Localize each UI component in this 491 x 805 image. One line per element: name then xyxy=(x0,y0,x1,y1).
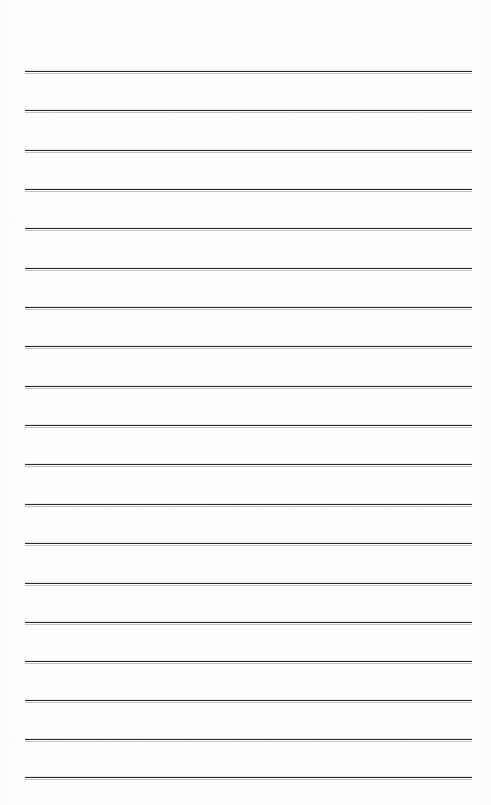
ruled-line xyxy=(25,739,472,740)
ruled-line xyxy=(25,543,472,544)
scan-vignette xyxy=(0,0,491,805)
ruled-line xyxy=(25,228,472,229)
ruled-line xyxy=(25,622,472,623)
ruled-line xyxy=(25,777,472,778)
ruled-line xyxy=(25,71,472,72)
ruled-line xyxy=(25,386,472,387)
ruled-line xyxy=(25,307,472,308)
ruled-line xyxy=(25,110,472,111)
ruled-line xyxy=(25,268,472,269)
ruled-line xyxy=(25,425,472,426)
ruled-line xyxy=(25,700,472,701)
ruled-line xyxy=(25,504,472,505)
ruled-line xyxy=(25,346,472,347)
scanned-lined-paper-page xyxy=(0,0,491,805)
ruled-line xyxy=(25,189,472,190)
ruled-line xyxy=(25,464,472,465)
ruled-line xyxy=(25,583,472,584)
ruled-line xyxy=(25,150,472,151)
paper-grain-texture xyxy=(0,0,491,805)
ruled-line xyxy=(25,661,472,662)
